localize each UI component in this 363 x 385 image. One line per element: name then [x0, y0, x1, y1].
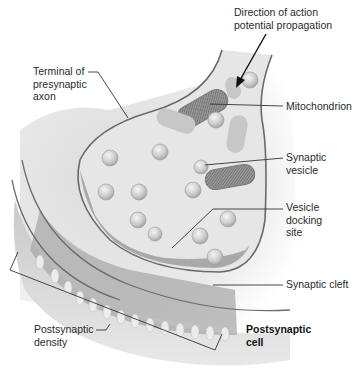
label-direction: Direction of action potential propagatio… [234, 6, 332, 31]
label-synaptic-cleft: Synaptic cleft [286, 278, 348, 291]
label-mitochondrion: Mitochondrion [286, 100, 352, 113]
label-terminal-presynaptic-axon: Terminal of presynaptic axon [33, 65, 87, 103]
label-postsynaptic-cell: Postsynaptic cell [246, 323, 311, 348]
label-vesicle-docking-site: Vesicle docking site [286, 201, 322, 239]
label-postsynaptic-density: Postsynaptic density [34, 323, 94, 348]
label-synaptic-vesicle: Synaptic vesicle [286, 151, 326, 176]
